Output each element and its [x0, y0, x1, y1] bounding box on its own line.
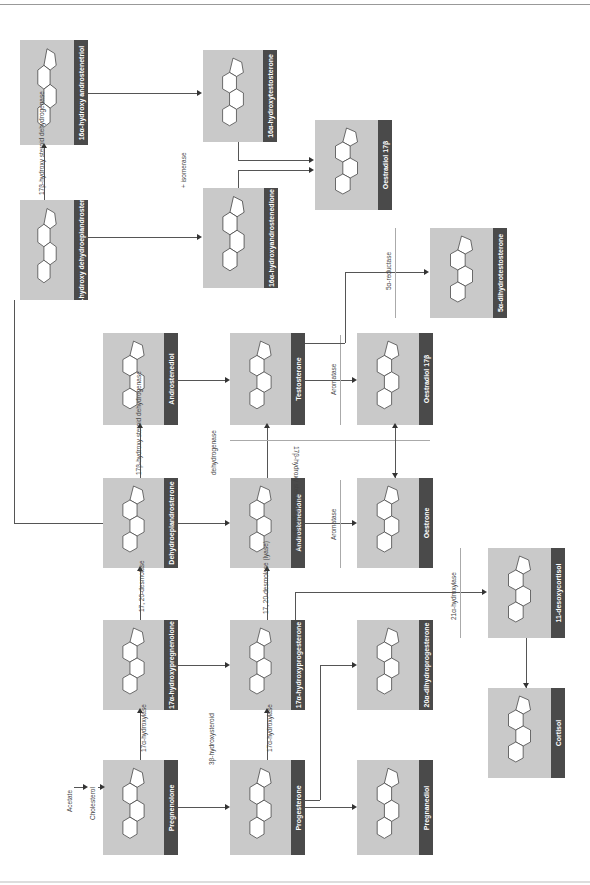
compound-label: 16α-hydroxy dehydroepiandrosterone	[78, 187, 85, 313]
enzyme-label-hsd3: 3β-hydroxysteroid	[208, 713, 216, 765]
connector	[267, 425, 268, 478]
enzyme-label-desmolase: 17, 20-desmolase	[138, 560, 146, 612]
arrow-right-icon	[100, 784, 105, 790]
compound-dhea: Dehydroepiandrosterone	[103, 478, 178, 568]
enzyme-label-dehydrogenase: dehydrogenase	[210, 430, 218, 475]
compound-label: Pregnenolone	[168, 784, 175, 831]
compound-label: 16α-hydroxy androstenetriol	[78, 45, 85, 140]
compound-label: 16α-hydroxyandrostenedione	[268, 189, 275, 287]
connector	[14, 523, 103, 524]
compound-dhea16: 16α-hydroxy dehydroepiandrosterone	[20, 200, 88, 300]
compound-label-bar: Pregnenolone	[164, 760, 178, 855]
compound-dihydroprogesterone: 20α-dihydroprogesterone	[357, 620, 433, 710]
precursor-acetate: Acetate	[66, 790, 74, 812]
compound-label-bar: Pregnanediol	[419, 760, 433, 855]
compound-label-bar: 5α-dihydrotestosterone	[493, 228, 507, 318]
connector	[345, 272, 346, 343]
connector	[395, 425, 396, 478]
arrow-right-icon	[225, 520, 230, 526]
compound-label-bar: Dehydroepiandrosterone	[164, 478, 178, 568]
compound-label-bar: 16α-hydroxy dehydroepiandrosterone	[74, 200, 88, 300]
compound-label: Testosterone	[295, 357, 302, 400]
connector	[178, 665, 226, 666]
top-rule	[0, 4, 590, 5]
compound-cortisol: Cortisol	[488, 688, 565, 778]
compound-label-bar: 11-desoxycortisol	[551, 548, 565, 638]
arrow-right-icon	[83, 784, 88, 790]
compound-label-bar: 16α-hydroxytestosterone	[263, 50, 277, 142]
compound-label: 17α-hydroxyprogesterone	[295, 622, 302, 708]
arrow-right-icon	[352, 662, 357, 668]
connector	[238, 170, 310, 171]
connector	[305, 523, 353, 524]
compound-hydroxyprogesterone: 17α-hydroxyprogesterone	[230, 620, 305, 710]
compound-label-bar: 17α-hydroxypregnenolone	[164, 620, 178, 710]
connector	[178, 523, 226, 524]
compound-label: Androstenediol	[168, 353, 175, 404]
enzyme-label-desmolase-lyase: 17, 20-desmolase (lyase)	[262, 541, 270, 614]
connector	[14, 300, 15, 523]
connector	[526, 638, 527, 688]
compound-label-bar: 20α-dihydroprogesterone	[419, 620, 433, 710]
compound-testosterone: Testosterone	[230, 333, 305, 425]
compound-label: Oestradiol 17β	[423, 355, 430, 404]
compound-label-bar: Testosterone	[291, 333, 305, 425]
compound-label-bar: Androstenediol	[164, 333, 178, 425]
compound-label-bar: Oestrone	[419, 478, 433, 568]
divider	[230, 440, 430, 441]
connector	[305, 807, 353, 808]
enzyme-label-isomerase: + isomerase	[180, 152, 188, 188]
compound-deoxycortisol: 11-desoxycortisol	[488, 548, 565, 638]
compound-label: 16α-hydroxytestosterone	[267, 54, 274, 138]
arrow-right-icon	[424, 269, 429, 275]
compound-label: Dehydroepiandrosterone	[168, 481, 175, 564]
divider	[460, 548, 461, 638]
arrow-right-icon	[309, 157, 314, 163]
compound-oestradiol: Oestradiol 17β	[357, 333, 433, 425]
arrow-right-icon	[197, 90, 202, 96]
enzyme-label-hsd17-mid: 17β-hydroxy steroid dehydrogenase	[135, 371, 143, 475]
compound-pregnenolone: Pregnenolone	[103, 760, 178, 855]
arrow-right-icon	[225, 662, 230, 668]
enzyme-label-hsd17-top: 17β-hydroxy steroid dehydrogenase	[38, 91, 46, 195]
compound-pregnanediol: Pregnanediol	[357, 760, 433, 855]
enzyme-label-hsd17-strip: 17β-hydroxy steroid dehydrogenase	[293, 446, 300, 550]
connector	[320, 665, 353, 666]
enzyme-label-reductase: 5α-reductase	[385, 252, 393, 290]
compound-label: 5α-dihydrotestosterone	[497, 234, 504, 312]
compound-label: Progesterone	[295, 785, 302, 830]
connector	[305, 800, 320, 801]
arrow-right-icon	[482, 589, 487, 595]
compound-label-bar: 16α-hydroxyandrostenedione	[264, 188, 278, 288]
divider	[340, 335, 341, 425]
divider	[395, 228, 396, 318]
compound-label-bar: Progesterone	[291, 760, 305, 855]
compound-label-bar: Cortisol	[551, 688, 565, 778]
compound-oestrone: Oestrone	[357, 478, 433, 568]
compound-label-bar: Oestradiol 17β	[378, 120, 392, 210]
connector	[178, 807, 226, 808]
arrow-right-icon	[225, 377, 230, 383]
compound-label-bar: 16α-hydroxy androstenetriol	[74, 40, 88, 145]
compound-label-bar: Oestradiol 17β	[419, 333, 433, 425]
arrow-right-icon	[309, 167, 314, 173]
arrow-down-icon	[392, 473, 398, 478]
arrow-up-icon	[392, 423, 398, 428]
compound-testosterone16: 16α-hydroxytestosterone	[203, 50, 277, 142]
compound-hydroxypregnenolone: 17α-hydroxypregnenolone	[103, 620, 178, 710]
enzyme-label-hydroxylase17-a: 17α-hydroxylase	[140, 704, 148, 752]
enzyme-label-hydroxylase21: 21α-hydroxylase	[450, 572, 458, 620]
compound-label: 11-desoxycortisol	[555, 563, 562, 622]
connector	[238, 142, 239, 160]
arrow-down-icon	[523, 683, 529, 688]
compound-androstenetriol16: 16α-hydroxy androstenetriol	[20, 40, 88, 145]
compound-dht: 5α-dihydrotestosterone	[430, 228, 507, 318]
bottom-rule	[0, 881, 590, 883]
connector	[178, 380, 226, 381]
precursor-cholesterol: Cholesterol	[89, 787, 97, 820]
compound-oestriol: Oestradiol 17β	[315, 120, 392, 210]
compound-label-bar: 17α-hydroxyprogesterone	[291, 620, 305, 710]
compound-label: Pregnanediol	[423, 785, 430, 829]
enzyme-label-hydroxylase17-b: 17α-hydroxylase	[266, 704, 274, 752]
compound-label: 20α-dihydroprogesterone	[423, 623, 430, 708]
